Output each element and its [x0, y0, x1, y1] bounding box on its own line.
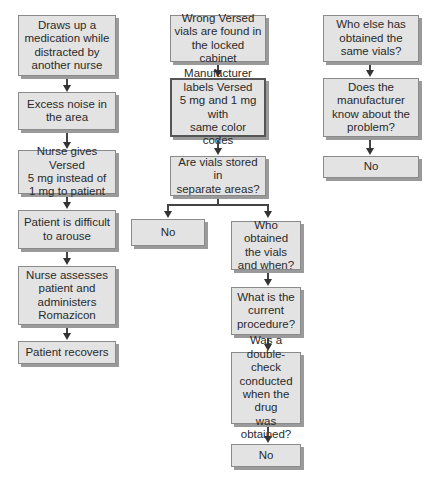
node-excess-noise: Excess noise in the area [18, 92, 116, 130]
node-label: Nurse gives Versed 5 mg instead of 1 mg … [22, 145, 112, 199]
node-label: Who else has obtained the same vials? [336, 18, 406, 58]
node-who-else-obtained: Who else has obtained the same vials? [323, 15, 419, 62]
node-label: Patient is difficult to arouse [24, 216, 110, 243]
node-manufacturer-labels: Manufacturer labels Versed 5 mg and 1 mg… [170, 78, 266, 137]
node-double-check-no: No [231, 444, 301, 467]
node-manufacturer-knows: Does the manufacturer know about the pro… [323, 78, 419, 137]
node-label: No [364, 160, 379, 173]
node-wrong-vials-found: Wrong Versed vials are found in the lock… [170, 15, 266, 62]
arrow-down-icon [63, 85, 71, 92]
node-label: Wrong Versed vials are found in the lock… [174, 12, 262, 66]
node-label: Who obtained the vials and when? [235, 219, 297, 273]
arrow-down-icon [214, 148, 222, 155]
node-label: Manufacturer labels Versed 5 mg and 1 mg… [175, 67, 261, 147]
arrow-down-icon [164, 211, 172, 218]
node-patient-recovers: Patient recovers [18, 341, 116, 364]
node-double-check: Was a double-check conducted when the dr… [231, 352, 301, 424]
arrow-down-icon [264, 436, 272, 443]
node-who-obtained-vials: Who obtained the vials and when? [231, 221, 301, 270]
arrow-down-icon [366, 70, 374, 77]
branch-horizontal [167, 204, 269, 206]
arrow-down-icon [63, 258, 71, 265]
node-label: Was a double-check conducted when the dr… [235, 334, 297, 441]
node-label: No [259, 449, 274, 462]
node-difficult-to-arouse: Patient is difficult to arouse [18, 210, 116, 249]
node-distracted-nurse: Draws up a medication while distracted b… [18, 15, 116, 76]
node-manufacturer-no: No [323, 156, 419, 178]
node-branch-no: No [131, 219, 205, 246]
node-label: Excess noise in the area [27, 98, 107, 125]
node-current-procedure: What is the current procedure? [231, 287, 301, 335]
node-label: No [161, 226, 176, 239]
node-label: Patient recovers [25, 346, 108, 359]
arrow-down-icon [366, 148, 374, 155]
node-label: Does the manufacturer know about the pro… [332, 81, 410, 135]
node-vials-stored-separately: Are vials stored in separate areas? [170, 156, 266, 196]
arrow-down-icon [264, 279, 272, 286]
node-label: Are vials stored in separate areas? [174, 156, 262, 196]
node-label: Draws up a medication while distracted b… [24, 19, 109, 73]
arrow-down-icon [264, 211, 272, 218]
node-administers-romazicon: Nurse assesses patient and administers R… [18, 266, 116, 325]
arrow-down-icon [63, 202, 71, 209]
arrow-down-icon [63, 333, 71, 340]
node-label: What is the current procedure? [237, 291, 295, 331]
node-label: Nurse assesses patient and administers R… [26, 269, 108, 323]
node-wrong-dose-given: Nurse gives Versed 5 mg instead of 1 mg … [18, 150, 116, 194]
